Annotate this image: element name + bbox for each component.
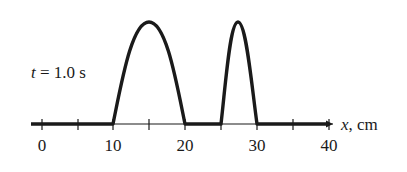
wave-snapshot-figure: 0 10 20 30 40 x, cm t = 1.0 s (0, 0, 407, 172)
x-axis-title: x, cm (340, 115, 378, 134)
time-annotation: t = 1.0 s (31, 63, 86, 82)
tick-label-0: 0 (38, 136, 47, 155)
x-tick-labels: 0 10 20 30 40 (38, 136, 338, 155)
tick-label-30: 30 (249, 136, 266, 155)
tick-label-20: 20 (177, 136, 194, 155)
time-value: = 1.0 s (36, 63, 86, 82)
tick-label-40: 40 (321, 136, 338, 155)
x-axis-unit: , cm (349, 115, 378, 134)
tick-label-10: 10 (105, 136, 122, 155)
